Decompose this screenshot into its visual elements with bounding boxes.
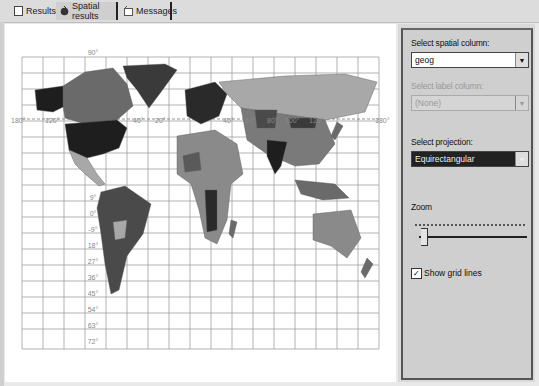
svg-text:20°: 20° (155, 117, 166, 124)
show-grid-lines-checkbox[interactable]: ✓ (411, 268, 422, 279)
tab-messages[interactable]: Messages (120, 2, 172, 20)
svg-text:120°: 120° (309, 117, 324, 124)
projection-select[interactable]: Equirectangular ▼ (411, 151, 529, 167)
svg-text:-9°: -9° (88, 226, 97, 233)
spatial-column-select[interactable]: geog ▼ (411, 52, 529, 68)
svg-text:120°: 120° (45, 117, 60, 124)
left-border (0, 22, 4, 386)
grid-icon (14, 6, 23, 16)
svg-text:45°: 45° (88, 290, 99, 297)
svg-text:54°: 54° (88, 306, 99, 313)
zoom-label: Zoom (411, 202, 432, 212)
svg-text:27°: 27° (88, 258, 99, 265)
options-panel: Select spatial column: geog ▼ Select lab… (401, 28, 533, 380)
tab-bar: Results Spatial results Messages (0, 0, 539, 23)
chevron-down-icon: ▼ (515, 152, 528, 166)
zoom-slider-thumb[interactable] (421, 228, 428, 246)
map-canvas[interactable]: 180°120° 40°20° 40°60° 80°100° 120°180° … (5, 24, 396, 382)
projection-label: Select projection: (411, 137, 473, 147)
tab-results-label: Results (26, 6, 56, 16)
tab-spatial-results[interactable]: Spatial results (56, 2, 118, 20)
svg-text:60°: 60° (245, 117, 256, 124)
side-panel: Select spatial column: geog ▼ Select lab… (398, 24, 535, 382)
svg-text:180°: 180° (375, 117, 390, 124)
label-column-select: (None) ▼ (411, 95, 529, 111)
svg-text:180°: 180° (11, 117, 26, 124)
tab-messages-label: Messages (136, 6, 177, 16)
spatial-column-value: geog (415, 55, 434, 65)
svg-text:63°: 63° (88, 322, 99, 329)
zoom-slider-ticks (415, 224, 525, 229)
svg-text:18°: 18° (88, 242, 99, 249)
zoom-slider-track[interactable] (419, 236, 527, 238)
svg-text:80°: 80° (267, 117, 278, 124)
spatial-column-label: Select spatial column: (411, 38, 489, 48)
svg-text:0°: 0° (90, 210, 97, 217)
svg-text:100°: 100° (285, 117, 300, 124)
continents (35, 64, 377, 294)
world-map: 180°120° 40°20° 40°60° 80°100° 120°180° … (5, 24, 396, 382)
projection-value: Equirectangular (415, 154, 475, 164)
message-icon (124, 6, 133, 16)
svg-text:72°: 72° (88, 338, 99, 345)
chevron-down-icon: ▼ (515, 53, 528, 67)
svg-text:9°: 9° (90, 194, 97, 201)
label-column-label: Select label column: (411, 81, 483, 91)
svg-text:40°: 40° (223, 117, 234, 124)
label-column-value: (None) (415, 98, 441, 108)
svg-text:90°: 90° (88, 49, 99, 56)
chevron-down-icon: ▼ (515, 96, 528, 110)
svg-text:36°: 36° (88, 274, 99, 281)
show-grid-lines-label[interactable]: Show grid lines (424, 268, 482, 278)
globe-icon (60, 6, 69, 16)
tab-spatial-results-label: Spatial results (72, 1, 112, 21)
tab-results[interactable]: Results (10, 2, 56, 20)
svg-text:40°: 40° (133, 117, 144, 124)
